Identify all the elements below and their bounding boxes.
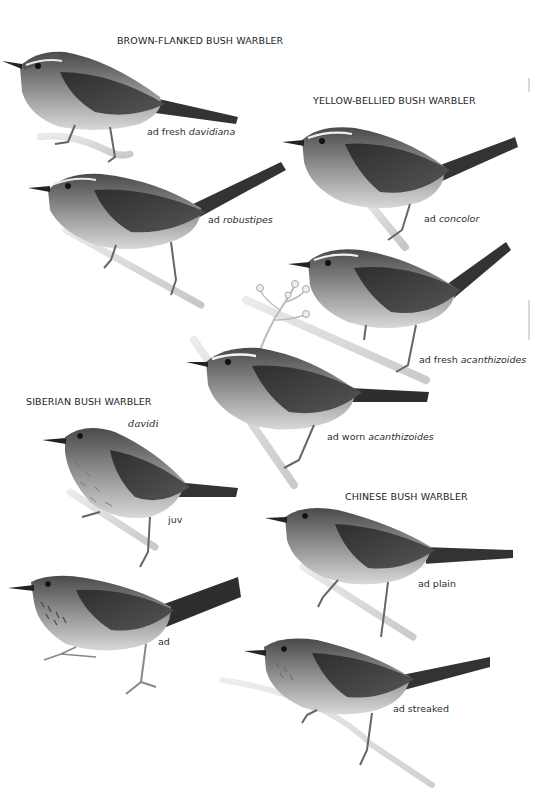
caption-ad-concolor: ad concolor <box>424 213 479 224</box>
page-edge-mark <box>528 300 530 340</box>
illustration-siberian-ad <box>6 572 241 702</box>
page-edge-mark <box>528 78 530 92</box>
illustration-chinese-streaked <box>242 635 492 795</box>
illustration-brown-flanked-davidiana <box>0 42 245 172</box>
species-title-siberian: SIBERIAN BUSH WARBLER <box>26 396 152 407</box>
species-title-chinese: CHINESE BUSH WARBLER <box>345 491 468 502</box>
caption-ad-streaked: ad streaked <box>393 703 449 714</box>
caption-ad-robustipes: ad robustipes <box>208 214 273 225</box>
illustration-yellow-bellied-concolor <box>280 122 520 252</box>
species-title-yellow-bellied: YELLOW-BELLIED BUSH WARBLER <box>313 95 476 106</box>
caption-ad-fresh-davidiana: ad fresh davidiana <box>147 126 235 137</box>
caption-ad-fresh-acanthizoides: ad fresh acanthizoides <box>419 354 526 365</box>
illustration-chinese-plain <box>263 502 518 642</box>
caption-ad-worn-acanthizoides: ad worn acanthizoides <box>327 431 434 442</box>
illustration-siberian-juv <box>40 422 240 572</box>
caption-juv: juv <box>168 514 182 525</box>
caption-ad: ad <box>158 636 170 647</box>
caption-ad-plain: ad plain <box>418 578 456 589</box>
